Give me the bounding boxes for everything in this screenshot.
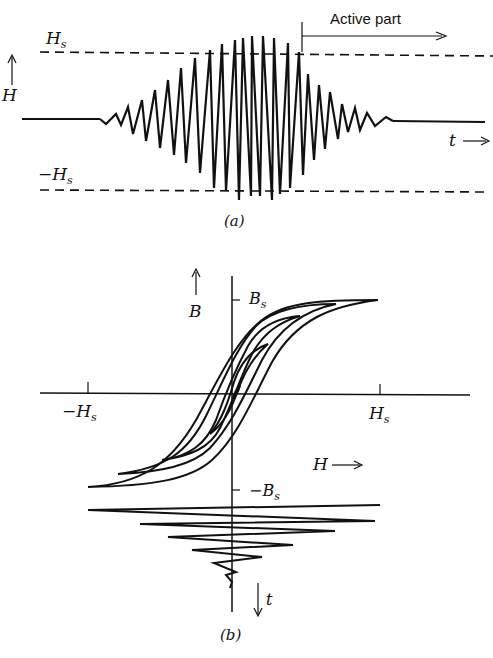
neg-bs-label: −Bs (249, 481, 280, 503)
t-down-label: t (266, 590, 273, 609)
neg-hs-axis-label: −Hs (62, 401, 97, 424)
h-right-label: H (312, 454, 329, 474)
active-part-label: Active part (330, 10, 402, 27)
hs-axis-label: Hs (368, 403, 390, 426)
t-axis-label: t (449, 130, 456, 150)
h-axis-label: H (1, 85, 18, 105)
panel-b-caption: (b) (220, 626, 241, 644)
neg-hs-label: −Hs (38, 164, 73, 187)
bs-label: Bs (248, 289, 267, 311)
panel-a-caption: (a) (224, 212, 245, 230)
hysteresis-figure: Active part H Hs −Hs t (a) (0, 0, 493, 658)
baseline-right (393, 121, 485, 122)
decaying-ac-waveform (100, 36, 393, 200)
b-axis-label: B (188, 301, 202, 321)
hs-dashed-line (40, 52, 493, 56)
panel-a: Active part H Hs −Hs t (a) (1, 10, 493, 230)
b-decay-trace (88, 505, 380, 588)
hs-label: Hs (45, 28, 67, 51)
panel-b: B Bs −Bs −Hs Hs H t (b) (40, 269, 470, 644)
neg-hs-dashed-line (40, 190, 490, 192)
